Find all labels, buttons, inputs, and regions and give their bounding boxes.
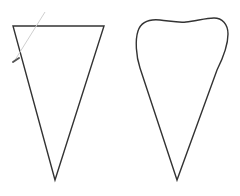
drag-guide-line <box>15 12 45 60</box>
rounded-triangle-shape[interactable] <box>136 18 228 180</box>
sharp-triangle-shape[interactable] <box>13 26 104 180</box>
drawing-stage <box>0 0 240 196</box>
drawing-canvas[interactable] <box>0 0 240 196</box>
